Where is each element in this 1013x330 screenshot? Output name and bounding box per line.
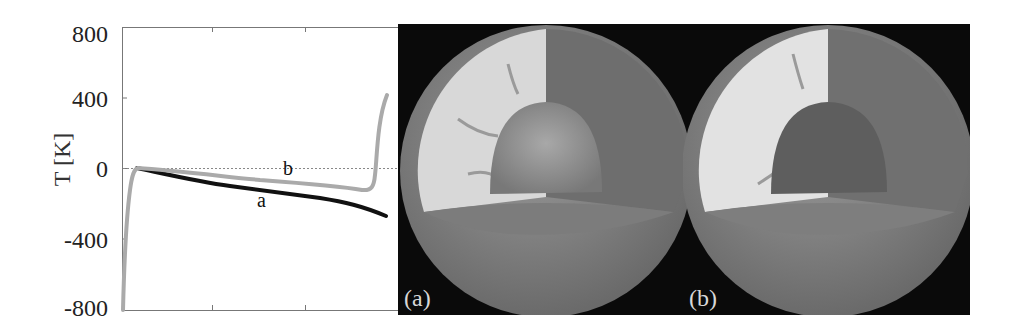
y-axis-label: T [K]: [49, 133, 76, 187]
y-tick-400: 400: [48, 87, 108, 111]
y-tick-neg400: -400: [48, 228, 108, 252]
sphere-images-panel: (a) (b): [398, 24, 970, 315]
panel-label-b: (b): [689, 285, 717, 311]
panel-label-a: (a): [404, 285, 431, 311]
sphere-b: (b): [683, 24, 970, 315]
sphere-b-render: [683, 24, 970, 315]
sphere-a-render: [398, 24, 688, 315]
curve-label-b: b: [283, 158, 293, 178]
y-tick-neg800: -800: [48, 296, 108, 320]
sphere-a: (a): [398, 24, 688, 315]
temperature-profile-chart: 800 400 0 -400 -800 T [K] b a: [0, 0, 400, 330]
curve-label-a: a: [257, 190, 266, 210]
y-tick-800: 800: [48, 22, 108, 46]
